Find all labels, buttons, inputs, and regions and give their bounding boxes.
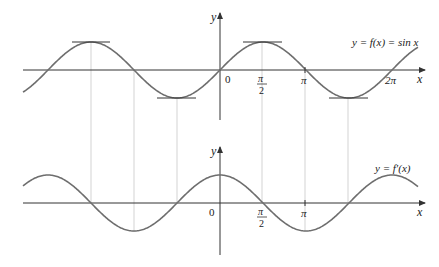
top-origin-label: 0 <box>225 73 231 85</box>
top-pi-label: π <box>301 74 307 86</box>
bottom-graph: y x 0 π 2 π y = f′(x) <box>23 144 425 255</box>
bottom-pi-label: π <box>301 207 307 219</box>
bottom-curve-label: y = f′(x) <box>374 162 411 175</box>
top-curve-label: y = f(x) = sin x <box>351 36 419 49</box>
top-2pi-label: 2π <box>385 74 397 86</box>
bottom-y-label: y <box>210 144 217 158</box>
top-x-label: x <box>416 72 423 86</box>
top-pi-half-num: π <box>258 73 264 84</box>
bottom-pi-half-den: 2 <box>259 218 264 229</box>
bottom-origin-label: 0 <box>209 206 215 218</box>
bottom-pi-half-num: π <box>258 206 264 217</box>
top-graph: y x 0 π 2 π 2π y = f(x) = sin x <box>23 10 425 120</box>
bottom-x-label: x <box>416 205 423 219</box>
top-pi-half-den: 2 <box>259 85 264 96</box>
derivative-diagram: y x 0 π 2 π 2π y = f(x) = sin x y x 0 π … <box>0 0 439 267</box>
top-y-label: y <box>210 10 217 24</box>
